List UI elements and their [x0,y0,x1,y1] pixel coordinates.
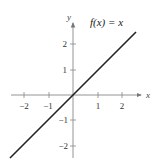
y-axis-label: y [66,12,71,22]
x-tick-label: 2 [120,101,125,111]
y-tick-label: −1 [58,115,68,125]
function-graph: −2 −1 1 2 2 1 −1 −2 x y f(x) = x [0,0,162,162]
y-tick-label: −2 [58,141,68,151]
x-axis-label: x [145,90,150,100]
function-label: f(x) = x [90,16,123,29]
x-tick-label: −2 [19,101,29,111]
y-tick-label: 2 [63,39,68,49]
x-tick-label: 1 [96,101,101,111]
y-tick-label: 1 [63,65,68,75]
x-tick-label: −1 [43,101,53,111]
